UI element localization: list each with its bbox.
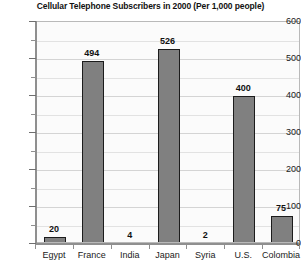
- y-tick-minor: [31, 151, 36, 152]
- y-tick-major: [29, 169, 36, 170]
- x-tick: [262, 245, 263, 249]
- bar-value-label: 400: [218, 84, 268, 93]
- bar-value-label: 20: [29, 225, 79, 234]
- y-tick-major: [29, 58, 36, 59]
- bar: [233, 96, 255, 243]
- bar-value-label: 2: [180, 231, 230, 240]
- y-tick-major: [29, 132, 36, 133]
- y-axis-tick-label: 500: [275, 54, 301, 63]
- x-axis-category-label: Colombia: [251, 250, 301, 260]
- y-axis-tick-label: 200: [275, 165, 301, 174]
- x-tick: [35, 245, 36, 249]
- y-tick-major: [29, 21, 36, 22]
- bar: [82, 61, 104, 243]
- y-tick-major: [29, 95, 36, 96]
- y-tick-major: [29, 243, 36, 244]
- y-tick-minor: [31, 77, 36, 78]
- y-tick-minor: [31, 188, 36, 189]
- bar-value-label: 75: [256, 204, 301, 213]
- x-tick: [149, 245, 150, 249]
- bar-value-label: 494: [67, 49, 117, 58]
- y-tick-minor: [31, 114, 36, 115]
- y-axis-tick-label: 300: [275, 128, 301, 137]
- y-tick-minor: [31, 40, 36, 41]
- y-axis-tick-label: 400: [275, 91, 301, 100]
- y-axis-tick-label: 600: [275, 17, 301, 26]
- bar-value-label: 526: [143, 37, 193, 46]
- x-tick: [186, 245, 187, 249]
- y-tick-major: [29, 206, 36, 207]
- bar: [158, 49, 180, 243]
- x-tick: [299, 245, 300, 249]
- chart-title: Cellular Telephone Subscribers in 2000 (…: [0, 1, 301, 11]
- x-tick: [224, 245, 225, 249]
- bar-chart: Cellular Telephone Subscribers in 2000 (…: [0, 0, 301, 266]
- x-tick: [73, 245, 74, 249]
- bar-value-label: 4: [105, 231, 155, 240]
- x-tick: [111, 245, 112, 249]
- y-axis-tick-label: 0: [275, 239, 301, 248]
- x-axis-line: [35, 243, 300, 245]
